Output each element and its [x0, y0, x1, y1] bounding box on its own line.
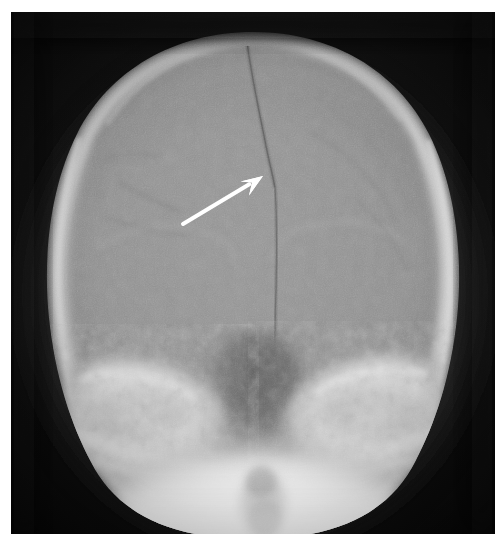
arrow-shaft: [183, 184, 249, 224]
skull-radiograph-image: [11, 12, 495, 534]
white-marker-arrow: [183, 176, 263, 224]
radiograph-page: AP skull (anteroposterior) X-ray Skull l…: [0, 0, 503, 550]
annotation-layer: [11, 12, 495, 534]
